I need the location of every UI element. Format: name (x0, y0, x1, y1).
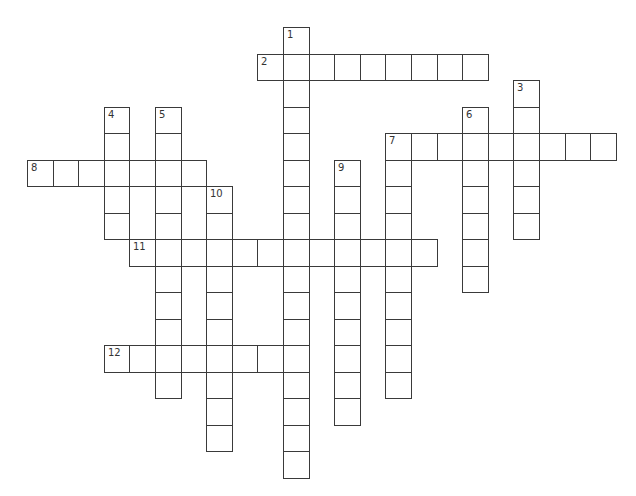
crossword-cell[interactable] (206, 398, 233, 426)
crossword-cell[interactable] (385, 266, 412, 293)
crossword-cell[interactable] (283, 213, 310, 240)
crossword-cell[interactable] (334, 239, 361, 267)
crossword-cell[interactable] (360, 239, 386, 267)
crossword-cell[interactable] (283, 160, 310, 187)
crossword-cell[interactable] (385, 239, 412, 267)
crossword-cell[interactable] (513, 186, 540, 214)
crossword-cell[interactable] (513, 133, 540, 161)
crossword-cell[interactable] (206, 425, 233, 452)
crossword-cell[interactable] (385, 54, 412, 81)
crossword-cell[interactable] (462, 186, 489, 214)
crossword-cell[interactable] (181, 345, 207, 373)
crossword-cell[interactable]: 1 (283, 27, 310, 55)
crossword-cell[interactable] (206, 372, 233, 399)
crossword-cell[interactable] (283, 80, 310, 108)
crossword-cell[interactable]: 4 (104, 107, 130, 134)
crossword-cell[interactable] (78, 160, 105, 187)
crossword-cell[interactable] (283, 425, 310, 452)
crossword-cell[interactable] (385, 160, 412, 187)
crossword-cell[interactable] (565, 133, 591, 161)
crossword-cell[interactable]: 7 (385, 133, 412, 161)
crossword-cell[interactable] (257, 345, 284, 373)
crossword-cell[interactable] (155, 186, 182, 214)
crossword-cell[interactable] (334, 345, 361, 373)
crossword-cell[interactable] (309, 239, 335, 267)
crossword-cell[interactable] (206, 213, 233, 240)
crossword-cell[interactable] (206, 239, 233, 267)
crossword-cell[interactable] (385, 345, 412, 373)
crossword-cell[interactable]: 3 (513, 80, 540, 108)
crossword-cell[interactable] (283, 398, 310, 426)
crossword-cell[interactable]: 10 (206, 186, 233, 214)
crossword-cell[interactable] (334, 266, 361, 293)
crossword-cell[interactable] (155, 266, 182, 293)
crossword-cell[interactable] (360, 54, 386, 81)
crossword-cell[interactable] (334, 54, 361, 81)
crossword-cell[interactable] (155, 345, 182, 373)
crossword-cell[interactable] (283, 266, 310, 293)
crossword-cell[interactable] (411, 54, 438, 81)
crossword-cell[interactable] (334, 186, 361, 214)
crossword-cell[interactable] (385, 319, 412, 346)
crossword-cell[interactable] (513, 107, 540, 134)
crossword-cell[interactable] (206, 292, 233, 320)
crossword-cell[interactable] (488, 133, 514, 161)
crossword-cell[interactable] (334, 398, 361, 426)
crossword-cell[interactable] (129, 160, 156, 187)
crossword-cell[interactable] (385, 292, 412, 320)
crossword-cell[interactable] (181, 239, 207, 267)
crossword-cell[interactable] (283, 107, 310, 134)
crossword-cell[interactable] (334, 372, 361, 399)
crossword-cell[interactable] (462, 133, 489, 161)
crossword-cell[interactable] (462, 239, 489, 267)
crossword-cell[interactable]: 5 (155, 107, 182, 134)
crossword-cell[interactable]: 11 (129, 239, 156, 267)
crossword-cell[interactable] (232, 345, 258, 373)
crossword-cell[interactable] (181, 160, 207, 187)
crossword-cell[interactable]: 12 (104, 345, 130, 373)
crossword-cell[interactable] (206, 319, 233, 346)
crossword-cell[interactable] (462, 266, 489, 293)
crossword-cell[interactable] (257, 239, 284, 267)
crossword-cell[interactable] (513, 213, 540, 240)
crossword-cell[interactable]: 8 (27, 160, 54, 187)
crossword-cell[interactable] (155, 292, 182, 320)
crossword-cell[interactable] (232, 239, 258, 267)
crossword-cell[interactable] (513, 160, 540, 187)
crossword-cell[interactable] (283, 292, 310, 320)
crossword-cell[interactable] (590, 133, 617, 161)
crossword-cell[interactable] (283, 54, 310, 81)
crossword-cell[interactable] (462, 54, 489, 81)
crossword-cell[interactable] (334, 292, 361, 320)
crossword-cell[interactable] (155, 133, 182, 161)
crossword-cell[interactable] (104, 133, 130, 161)
crossword-cell[interactable] (155, 160, 182, 187)
crossword-cell[interactable] (104, 160, 130, 187)
crossword-cell[interactable] (155, 213, 182, 240)
crossword-cell[interactable] (462, 160, 489, 187)
crossword-cell[interactable] (309, 54, 335, 81)
crossword-cell[interactable] (155, 319, 182, 346)
crossword-cell[interactable]: 6 (462, 107, 489, 134)
crossword-cell[interactable] (283, 451, 310, 479)
crossword-cell[interactable] (411, 133, 438, 161)
crossword-cell[interactable] (155, 372, 182, 399)
crossword-cell[interactable] (334, 213, 361, 240)
crossword-cell[interactable] (104, 213, 130, 240)
crossword-cell[interactable] (437, 133, 463, 161)
crossword-cell[interactable] (283, 186, 310, 214)
crossword-cell[interactable] (462, 213, 489, 240)
crossword-cell[interactable] (539, 133, 566, 161)
crossword-cell[interactable] (283, 133, 310, 161)
crossword-cell[interactable]: 2 (257, 54, 284, 81)
crossword-cell[interactable] (283, 319, 310, 346)
crossword-cell[interactable] (411, 239, 438, 267)
crossword-cell[interactable] (104, 186, 130, 214)
crossword-cell[interactable] (334, 319, 361, 346)
crossword-cell[interactable] (53, 160, 79, 187)
crossword-cell[interactable] (385, 213, 412, 240)
crossword-cell[interactable]: 9 (334, 160, 361, 187)
crossword-cell[interactable] (283, 239, 310, 267)
crossword-cell[interactable] (283, 345, 310, 373)
crossword-cell[interactable] (283, 372, 310, 399)
